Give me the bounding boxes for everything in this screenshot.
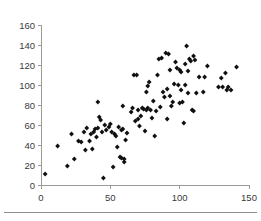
data-point [123,138,128,143]
data-point [168,94,173,99]
data-point [83,148,88,153]
data-point [69,132,74,137]
data-point [220,85,225,90]
y-tick-label: 0 [30,180,35,191]
data-point-group [43,44,239,181]
data-point [223,71,228,76]
data-point [162,95,167,100]
data-point [120,104,125,109]
data-point [43,172,48,177]
data-point [179,88,184,93]
data-point [101,176,106,181]
data-point [172,82,177,87]
data-point [129,110,134,115]
data-point [55,144,60,149]
data-point [158,105,163,110]
y-tick-label: 100 [19,80,35,91]
data-point [100,130,105,135]
data-point [144,90,149,95]
y-tick-label: 20 [24,160,35,171]
data-point [205,64,210,69]
data-point [194,91,199,96]
data-point [165,117,170,122]
data-point [95,100,100,105]
data-point [147,80,152,85]
data-point [219,76,224,81]
data-point [145,84,150,89]
y-tick-label: 80 [24,100,35,111]
data-point [181,121,186,126]
data-point [186,69,191,74]
data-point [184,44,189,49]
data-point [151,99,156,104]
y-tick-label: 40 [24,140,35,151]
data-point [104,128,109,133]
data-point [134,73,139,78]
data-point [216,85,221,90]
data-point [130,106,135,111]
data-point [152,134,157,139]
data-point [116,125,121,130]
data-point [72,157,77,162]
data-point [82,130,87,135]
data-point [183,83,188,88]
y-tick-label: 160 [19,20,35,31]
x-tick-label: 150 [241,192,257,203]
scatter-plot-figure: 020406080100120140160 050100150 [0,0,261,221]
y-tick-label: 140 [19,40,35,51]
data-point [87,139,92,144]
data-point [234,65,239,70]
data-point [150,116,155,121]
data-point [173,60,178,65]
data-point [165,87,170,92]
data-point [161,90,166,95]
data-point [176,83,181,88]
data-point [137,124,142,129]
data-point [138,114,143,119]
data-point [143,129,148,134]
data-point [186,91,191,96]
data-point [115,145,120,150]
data-point [229,88,234,93]
data-point [154,109,159,114]
y-axis-ticks: 020406080100120140160 [19,20,41,191]
data-point [191,54,196,59]
y-tick-label: 120 [19,60,35,71]
data-point [183,62,188,67]
data-point [170,100,175,105]
data-point [193,58,198,63]
x-tick-label: 50 [105,192,116,203]
x-tick-label: 0 [38,192,43,203]
data-point [202,75,207,80]
data-point [111,165,116,170]
data-point [84,126,89,131]
data-point [197,75,202,80]
x-tick-label: 100 [172,192,188,203]
data-point [155,73,160,78]
data-point [94,135,99,140]
data-point [168,68,173,73]
y-tick-label: 60 [24,120,35,131]
data-point [136,108,141,113]
data-point [102,123,107,128]
data-point [201,90,206,95]
data-point [90,147,95,152]
x-axis-ticks: 050100150 [38,185,257,203]
data-point [169,104,174,109]
data-point [65,164,70,169]
scatter-plot-canvas: 020406080100120140160 050100150 [0,0,261,221]
data-point [125,131,130,136]
